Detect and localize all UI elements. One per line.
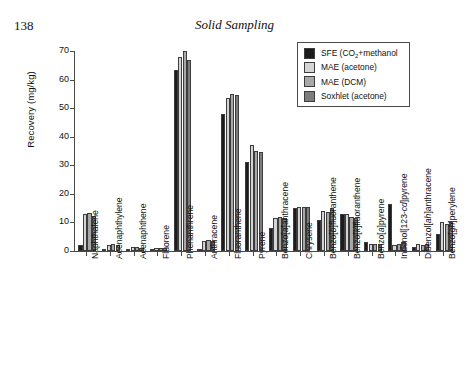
x-tick-mark <box>348 252 349 256</box>
y-tick-label: 50 <box>43 103 69 112</box>
x-tick-label: Benzo[b]fluoranthene <box>328 177 338 259</box>
x-tick-mark <box>276 252 277 256</box>
y-tick-label: 70 <box>43 46 69 55</box>
x-tick-label: Benzo[a]pyrene <box>376 199 386 259</box>
x-tick-mark <box>134 252 135 256</box>
x-tick-mark <box>205 252 206 256</box>
legend-item: MAE (acetone) <box>304 62 404 73</box>
x-tick-mark <box>157 252 158 256</box>
x-tick-mark <box>324 252 325 256</box>
x-tick-label: Benzo[gh]perylene <box>447 187 457 259</box>
x-axis-line <box>74 251 455 252</box>
bar <box>388 204 392 251</box>
y-tick-label: 40 <box>43 132 69 141</box>
x-tick-label: Dibenzol[ah]anthracene <box>423 168 433 259</box>
x-tick-mark <box>443 252 444 256</box>
legend-item: SFE (CO2+methanol <box>304 48 404 59</box>
x-tick-mark <box>372 252 373 256</box>
x-tick-mark <box>110 252 111 256</box>
bar-group <box>150 51 168 251</box>
x-tick-label: Anthracene <box>209 215 219 259</box>
x-tick-mark <box>419 252 420 256</box>
y-tick-label: 20 <box>43 189 69 198</box>
legend-item: MAE (DCM) <box>304 76 404 87</box>
x-tick-label: Acenaphthylene <box>114 197 124 259</box>
x-tick-mark <box>253 252 254 256</box>
x-tick-label: Benzo[a]anthracene <box>280 182 290 259</box>
x-tick-label: Indenol[123-cd]pyrene <box>399 173 409 259</box>
legend-swatch <box>304 48 315 59</box>
x-tick-mark <box>395 252 396 256</box>
chart-legend: SFE (CO2+methanolMAE (acetone)MAE (DCM)S… <box>297 42 410 107</box>
x-tick-mark <box>229 252 230 256</box>
y-axis-line <box>74 51 75 252</box>
legend-swatch <box>304 62 315 73</box>
x-tick-mark <box>300 252 301 256</box>
x-tick-label: Pyrene <box>257 232 267 259</box>
legend-label: SFE (CO2+methanol <box>321 49 398 57</box>
y-tick-label: 60 <box>43 75 69 84</box>
y-tick-label: 0 <box>43 246 69 255</box>
x-tick-mark <box>181 252 182 256</box>
x-tick-label: Chrysene <box>304 222 314 259</box>
bar-group <box>245 51 263 251</box>
y-axis-label: Recovery (mg/kg) <box>25 10 36 210</box>
x-tick-label: Benzo[k]fluoranthene <box>352 178 362 259</box>
x-tick-label: Fluorene <box>161 225 171 259</box>
legend-swatch <box>304 76 315 87</box>
x-tick-mark <box>86 252 87 256</box>
legend-label: MAE (DCM) <box>321 78 366 86</box>
legend-item: Soxhlet (acetone) <box>304 91 404 102</box>
y-tick-label: 30 <box>43 160 69 169</box>
legend-swatch <box>304 91 315 102</box>
legend-label: MAE (acetone) <box>321 63 377 71</box>
legend-label: Soxhlet (acetone) <box>321 92 387 100</box>
y-tick-label: 10 <box>43 217 69 226</box>
